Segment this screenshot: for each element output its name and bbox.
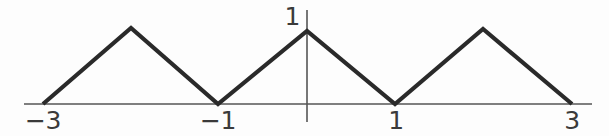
x-tick-label-3: 3 bbox=[564, 108, 579, 133]
x-tick-label-1: 1 bbox=[388, 108, 403, 133]
x-tick-label-minus-1: −1 bbox=[200, 108, 236, 133]
x-tick-label-minus-3: −3 bbox=[25, 108, 61, 133]
plot-canvas bbox=[0, 0, 609, 136]
triangle-wave-figure: −3 −1 1 3 1 bbox=[0, 0, 609, 136]
y-tick-label-1: 1 bbox=[285, 4, 304, 29]
